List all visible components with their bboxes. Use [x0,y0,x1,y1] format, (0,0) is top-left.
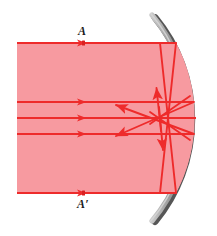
optics-ray-diagram-svg [0,0,217,236]
figure-canvas: A A′ [0,0,217,236]
tick-A [82,41,85,46]
tick-Ap [82,191,85,196]
ray-label-A-prime: A′ [77,197,89,212]
ray-label-A: A [78,24,86,39]
